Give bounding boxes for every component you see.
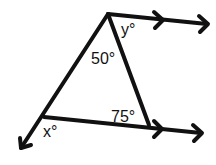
label-y-angle: y°: [121, 21, 135, 38]
left-transversal: [21, 14, 108, 148]
label-bottom-right-angle: 75°: [111, 108, 135, 125]
label-x-angle: x°: [43, 123, 57, 140]
geometry-diagram: y° 50° 75° x°: [0, 0, 216, 165]
label-apex-angle: 50°: [91, 50, 115, 67]
